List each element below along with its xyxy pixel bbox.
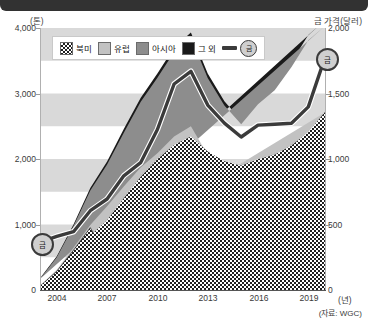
legend-label-north-america: 북미 bbox=[76, 42, 92, 54]
gold-circle-icon: 금 bbox=[240, 40, 257, 57]
legend-label-gold: 금 bbox=[246, 43, 252, 53]
window-header-bar bbox=[0, 0, 368, 11]
left-tick-4000: 4,000 bbox=[4, 23, 36, 33]
right-tick-1000: 1,000 bbox=[328, 154, 362, 164]
legend-label-other: 그 외 bbox=[198, 42, 216, 54]
x-axis-line bbox=[40, 290, 326, 291]
light-gray-swatch-icon bbox=[98, 42, 111, 55]
left-tick-2000: 2,000 bbox=[4, 154, 36, 164]
right-tickmark-1000 bbox=[326, 159, 330, 160]
legend-item-asia[interactable]: 아시아 bbox=[136, 42, 176, 55]
left-tickmark-2000 bbox=[36, 159, 40, 160]
right-tickmark-500 bbox=[326, 225, 330, 226]
x-tick-2016: 2016 bbox=[250, 293, 269, 303]
legend-label-europe: 유럽 bbox=[114, 42, 130, 54]
left-tick-3000: 3,000 bbox=[4, 89, 36, 99]
black-swatch-icon bbox=[182, 42, 195, 55]
right-tickmark-1500 bbox=[326, 94, 330, 95]
left-tickmark-1000 bbox=[36, 225, 40, 226]
x-tick-2007: 2007 bbox=[98, 293, 117, 303]
legend-item-other[interactable]: 그 외 bbox=[182, 42, 216, 55]
left-tick-0: 0 bbox=[4, 285, 36, 295]
source-note: (자료: WGC) bbox=[319, 307, 362, 318]
chart-svg bbox=[40, 28, 325, 290]
plot-canvas bbox=[40, 28, 325, 290]
left-tick-1000: 1,000 bbox=[4, 220, 36, 230]
legend-label-asia: 아시아 bbox=[152, 42, 176, 54]
line-swatch-icon bbox=[222, 46, 237, 50]
legend-item-europe[interactable]: 유럽 bbox=[98, 42, 130, 55]
right-tick-2000: 2,000 bbox=[328, 23, 362, 33]
gold-marker-start: 금 bbox=[31, 233, 54, 256]
left-tickmark-4000 bbox=[36, 28, 40, 29]
legend-item-gold-price[interactable]: 금 bbox=[222, 40, 257, 57]
chart-legend: 북미 유럽 아시아 그 외 금 bbox=[52, 36, 265, 60]
checker-swatch-icon bbox=[60, 42, 73, 55]
chart-screenshot: (톤) 금 가격(달러) bbox=[0, 0, 368, 322]
x-tick-2019: 2019 bbox=[300, 293, 319, 303]
medium-gray-swatch-icon bbox=[136, 42, 149, 55]
left-tickmark-3000 bbox=[36, 94, 40, 95]
legend-item-north-america[interactable]: 북미 bbox=[60, 42, 92, 55]
x-axis-unit-label: (년) bbox=[338, 293, 352, 305]
x-tick-2010: 2010 bbox=[149, 293, 168, 303]
right-tick-500: 500 bbox=[328, 220, 362, 230]
gold-marker-end: 금 bbox=[316, 48, 339, 71]
x-tick-2013: 2013 bbox=[199, 293, 218, 303]
plot-area: 금 금 bbox=[40, 28, 325, 290]
right-tick-1500: 1,500 bbox=[328, 89, 362, 99]
x-tick-2004: 2004 bbox=[48, 293, 67, 303]
